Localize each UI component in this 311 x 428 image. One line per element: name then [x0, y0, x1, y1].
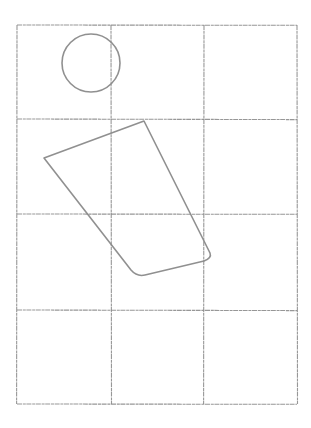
grid-horizontal-line [17, 119, 297, 120]
quadrilateral-shape [44, 121, 210, 275]
sketch-canvas [0, 0, 311, 428]
grid-horizontal-line [17, 310, 297, 311]
grid-vertical-line [297, 25, 298, 404]
grid [17, 25, 298, 404]
